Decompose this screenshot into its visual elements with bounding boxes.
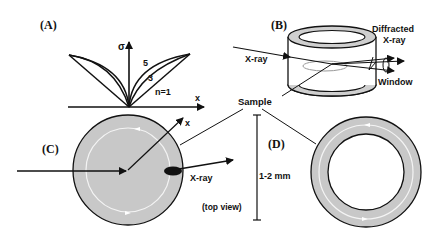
curve-label-5: 5 bbox=[143, 58, 148, 68]
panel-a-plot: (A) σ x 5 3 n=1 bbox=[40, 18, 204, 107]
panel-b-label: (B) bbox=[271, 18, 287, 32]
incident-xray-label: X-ray bbox=[245, 54, 268, 64]
c-x-axis-label: x bbox=[185, 118, 190, 128]
window-label: Window bbox=[378, 77, 413, 87]
c-xray-label: X-ray bbox=[190, 173, 213, 183]
sample-label: Sample bbox=[238, 96, 272, 107]
panel-b-cylinder: (B) X-ray Diffracted X-ray Window bbox=[233, 18, 414, 96]
scale-bar: 1-2 mm bbox=[253, 115, 291, 220]
diffracted-xray-label-line1: Diffracted bbox=[372, 24, 414, 34]
panel-c-top-view: (C) x X-ray (top view) bbox=[17, 115, 242, 225]
sigma-axis-label: σ bbox=[118, 41, 125, 52]
panel-c-label: (C) bbox=[42, 142, 59, 156]
x-axis-label: x bbox=[195, 93, 200, 103]
curve-label-n1: n=1 bbox=[155, 87, 171, 97]
diffracted-xray-label-line2: X-ray bbox=[383, 35, 406, 45]
panel-d-ring-sample: (D) bbox=[268, 117, 421, 227]
curve-label-3: 3 bbox=[148, 73, 153, 83]
scale-label: 1-2 mm bbox=[259, 171, 291, 181]
diagram-svg: (A) σ x 5 3 n=1 (B) X-ray bbox=[0, 0, 438, 237]
beam-spot bbox=[164, 167, 182, 176]
panel-a-label: (A) bbox=[40, 18, 57, 32]
top-view-label: (top view) bbox=[202, 202, 242, 212]
panel-d-label: (D) bbox=[268, 137, 285, 151]
diagram-canvas: (A) σ x 5 3 n=1 (B) X-ray bbox=[0, 0, 438, 237]
